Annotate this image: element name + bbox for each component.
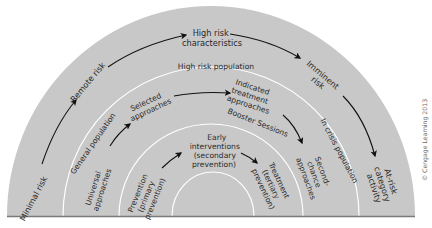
copyright-notice: © Cengage Learning 2013	[421, 99, 429, 181]
label-high-risk-population: High risk population	[178, 62, 254, 71]
label-characteristics: characteristics	[182, 38, 242, 48]
label-early: Early	[207, 133, 227, 142]
prevention-continuum-diagram: Minimal risk Remote risk High risk chara…	[0, 0, 432, 228]
label-high-risk: High risk	[193, 28, 229, 38]
label-secondary: (secondary	[194, 151, 237, 160]
label-prevention-close: prevention)	[192, 160, 236, 169]
label-interventions: interventions	[190, 142, 240, 151]
